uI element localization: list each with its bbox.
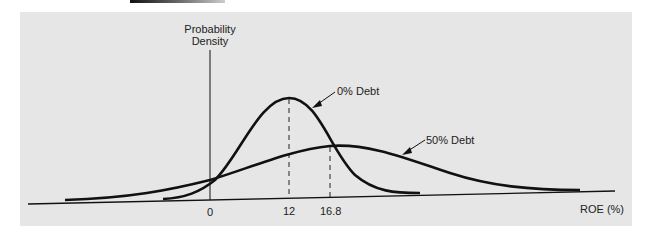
x-axis-label: ROE (%)	[580, 203, 624, 215]
x-tick-0: 0	[207, 206, 213, 218]
curve-50-debt	[65, 146, 580, 200]
series-label-50-debt: 50% Debt	[426, 134, 474, 146]
arrowhead-0-debt-icon	[312, 100, 322, 108]
x-tick-16-8: 16.8	[320, 205, 341, 217]
chart-plot	[0, 0, 645, 234]
y-axis-label-line2: Density	[178, 35, 242, 47]
arrowhead-50-debt-icon	[402, 147, 412, 155]
series-label-0-debt: 0% Debt	[337, 85, 379, 97]
y-axis-label-line1: Probability	[178, 23, 242, 35]
y-axis-label: Probability Density	[178, 23, 242, 47]
curve-0-debt	[163, 98, 420, 199]
x-tick-12: 12	[283, 205, 295, 217]
